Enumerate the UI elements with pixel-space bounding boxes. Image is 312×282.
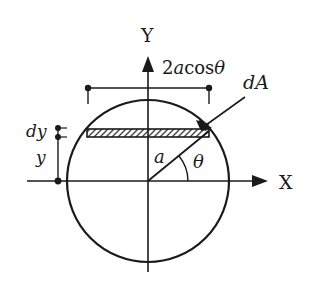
width-dimension-dot-left	[85, 85, 91, 91]
angle-arc	[179, 156, 188, 181]
y-axis-arrow-icon	[142, 56, 154, 72]
width-dimension-dot-right	[206, 85, 212, 91]
strip-dA	[87, 129, 209, 137]
dy-label: dy	[26, 121, 47, 141]
angle-label: θ	[193, 151, 204, 172]
x-axis-label: X	[279, 171, 293, 193]
dA-leader-line	[206, 97, 245, 125]
y-origin-dot	[55, 178, 62, 185]
radius-label: a	[154, 146, 165, 167]
circle-section-diagram: Y X 2acosθ dA dy y a θ	[0, 0, 312, 282]
x-axis-arrow-icon	[252, 175, 268, 187]
dy-dot-top	[55, 125, 61, 131]
dA-label: dA	[243, 71, 269, 93]
y-label: y	[35, 147, 46, 167]
dy-dot-bottom	[55, 134, 61, 140]
y-axis-label: Y	[140, 24, 154, 46]
width-dimension-label: 2acosθ	[162, 57, 225, 78]
